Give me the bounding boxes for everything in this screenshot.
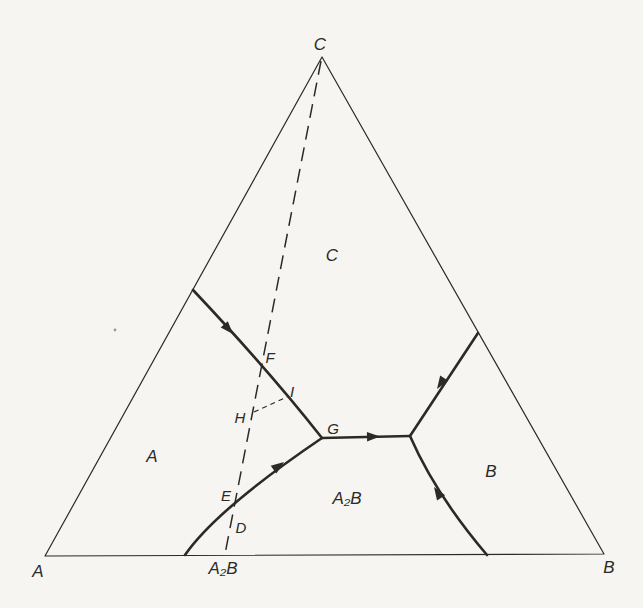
region-label-b: B (485, 462, 496, 481)
region-label-c: C (326, 246, 339, 265)
boundary-curve-junction-bottom (410, 436, 487, 555)
alkemade-line-c-a2b (225, 61, 321, 554)
region-label-a: A (145, 447, 157, 466)
compound-label-a2b-bottom: A₂B (207, 559, 237, 578)
boundary-curve-f-g (193, 290, 322, 438)
ternary-diagram-canvas: C A B A₂B C A B A₂B F I H G E D (0, 0, 643, 608)
boundary-line-right-junction (410, 333, 478, 436)
point-label-f: F (265, 349, 275, 366)
vertex-label-a: A (31, 562, 43, 581)
point-label-d: D (236, 519, 247, 536)
scan-speck (114, 329, 117, 332)
region-label-a2b: A₂B (331, 489, 361, 508)
triangle-outline (45, 57, 604, 556)
flow-arrow-icon (367, 432, 380, 442)
point-label-i: I (290, 383, 294, 400)
point-label-e: E (221, 487, 232, 504)
conjugation-line-h-i (254, 397, 287, 412)
vertex-label-b: B (603, 558, 614, 577)
phase-diagram-figure: C A B A₂B C A B A₂B F I H G E D (0, 0, 643, 608)
boundary-curve-e-g (185, 438, 322, 555)
point-label-g: G (327, 420, 339, 437)
point-label-h: H (235, 409, 246, 426)
vertex-label-c: C (314, 35, 327, 54)
